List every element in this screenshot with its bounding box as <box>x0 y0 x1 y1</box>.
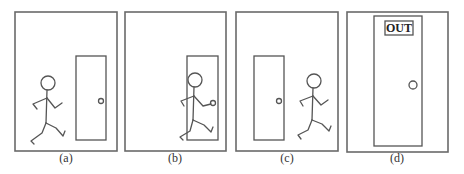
caption-a: (a) <box>59 151 72 166</box>
panel-c <box>236 12 338 151</box>
figure-canvas: OUT <box>0 0 464 174</box>
caption-b: (b) <box>168 151 182 166</box>
panel-d: OUT <box>347 12 448 152</box>
panel-d-out-text: OUT <box>386 21 412 35</box>
caption-d: (d) <box>390 151 404 166</box>
panel-a <box>15 12 117 151</box>
panel-c-frame <box>236 12 338 151</box>
caption-c: (c) <box>280 151 293 166</box>
panel-b <box>125 12 226 151</box>
